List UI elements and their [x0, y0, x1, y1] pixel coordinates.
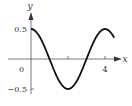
y-tick-label: 0.5 — [14, 25, 27, 34]
y-axis-label: y — [26, 1, 33, 11]
x-axis-arrow-icon — [114, 57, 122, 62]
x-axis-label: x — [122, 54, 127, 64]
cosine-chart: y x 0 40.5−0.5 — [0, 0, 132, 106]
origin-label: 0 — [19, 65, 24, 74]
y-axis-arrow-icon — [29, 12, 34, 20]
y-tick-label: −0.5 — [8, 85, 27, 94]
tick-labels: 40.5−0.5 — [8, 25, 108, 94]
x-tick-label: 4 — [102, 65, 107, 74]
